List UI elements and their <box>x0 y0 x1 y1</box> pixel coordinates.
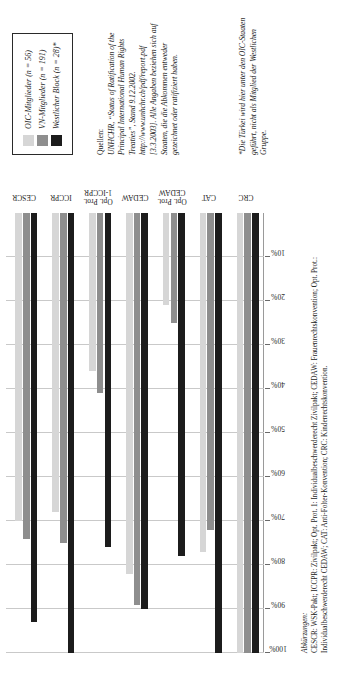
legend-item-label: VN-Mitglieder (n = 191) <box>38 50 47 129</box>
value-axis-tick-label: 30% <box>271 336 285 345</box>
gridline <box>6 608 264 609</box>
turkey-footnote: *Die Türkei wird hier unter den OIC-Staa… <box>238 13 270 155</box>
value-axis-tick-label: 90% <box>271 600 285 609</box>
legend-swatch-icon <box>51 135 62 146</box>
value-axis-tick-label: 40% <box>271 380 285 389</box>
legend-swatch-icon <box>23 135 34 146</box>
bar <box>171 213 178 323</box>
bar <box>23 213 30 539</box>
category-label: ICCPR <box>50 193 72 202</box>
bar <box>89 213 96 371</box>
category-axis-line <box>263 213 264 653</box>
bar <box>163 213 170 305</box>
value-axis-tick-mark <box>265 520 270 521</box>
bar <box>134 213 141 605</box>
gridline <box>6 652 264 653</box>
abbreviations-text: CESCR: WSK-Pakt; ICCPR: Zivilpakt; Opt. … <box>310 183 330 653</box>
legend-item-label: Westlicher Block (n = 28)* <box>52 43 61 129</box>
bar <box>60 213 67 543</box>
legend-swatch-icon <box>37 135 48 146</box>
value-axis-tick-mark <box>265 300 270 301</box>
value-axis-tick-mark <box>265 476 270 477</box>
bar <box>244 213 251 653</box>
legend-item: Westlicher Block (n = 28)* <box>51 43 62 146</box>
bar <box>126 213 133 574</box>
abbreviations-note: Abkürzungen: CESCR: WSK-Pakt; ICCPR: Ziv… <box>300 183 330 653</box>
value-axis-tick-mark <box>265 256 270 257</box>
category-label: Opt. Prot. 1-ICCPR <box>83 188 112 206</box>
bar <box>178 213 185 556</box>
legend-item: OIC-Mitglieder (n = 56) <box>23 43 34 146</box>
bar <box>237 213 244 653</box>
bar <box>105 213 112 547</box>
value-axis-tick-label: 50% <box>271 424 285 433</box>
abbreviations-lead: Abkürzungen: <box>300 183 310 653</box>
bar <box>97 213 104 393</box>
bar <box>15 213 22 521</box>
bar <box>215 213 222 653</box>
figure-stage: 100%90%80%70%60%50%40%30%20%10% CESCRICC… <box>0 0 361 675</box>
value-axis-tick-label: 80% <box>271 556 285 565</box>
bar <box>68 213 75 653</box>
value-axis-tick-mark <box>265 344 270 345</box>
legend-item-label: OIC-Mitglieder (n = 56) <box>24 50 33 129</box>
legend-item: VN-Mitglieder (n = 191) <box>37 43 48 146</box>
value-axis-tick-mark <box>265 388 270 389</box>
value-axis-tick-label: 100% <box>269 644 287 653</box>
value-axis-tick-label: 10% <box>271 248 285 257</box>
category-label: CESCR <box>13 193 37 202</box>
bar <box>31 213 38 622</box>
bar <box>52 213 59 512</box>
value-axis-tick-mark <box>265 652 270 653</box>
value-axis-tick-label: 70% <box>271 512 285 521</box>
value-axis-tick-mark <box>265 432 270 433</box>
source-note-text: UNHCHR, “Status of Ratification of the P… <box>107 24 180 155</box>
value-axis-tick-label: 20% <box>271 292 285 301</box>
category-label: CEDAW <box>122 193 149 202</box>
category-label: Opt. Prot. CEDAW <box>157 188 186 206</box>
value-axis-tick-mark <box>265 608 270 609</box>
source-note-lead: Quellen: <box>96 129 105 155</box>
source-note: Quellen: UNHCHR, “Status of Ratification… <box>96 13 181 155</box>
category-label: CRC <box>238 193 253 202</box>
value-axis-tick-mark <box>265 564 270 565</box>
bar <box>207 213 214 530</box>
bar <box>141 213 148 609</box>
bar <box>252 213 259 653</box>
bar-chart-plot: 100%90%80%70%60%50%40%30%20%10% <box>6 213 264 653</box>
value-axis-tick-label: 60% <box>271 468 285 477</box>
bar <box>200 213 207 552</box>
category-label: CAT <box>202 193 216 202</box>
chart-legend: OIC-Mitglieder (n = 56) VN-Mitglieder (n… <box>12 33 73 155</box>
